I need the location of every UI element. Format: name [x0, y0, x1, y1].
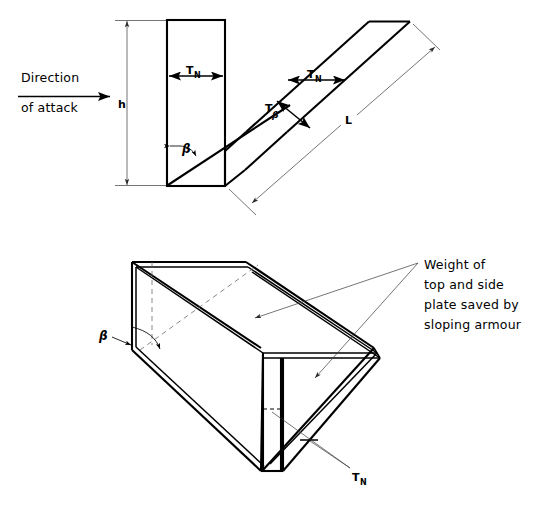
tn-label-main: T [186, 64, 194, 77]
tn-label-subscript: N [194, 71, 201, 80]
skirt-inner-lower-edge [136, 347, 264, 466]
tn-leader-right [310, 441, 350, 468]
tn-label-sloped-plate: T N [307, 68, 322, 84]
vertical-plate-outline [167, 20, 225, 186]
length-dimension-arrow-lower [252, 125, 341, 203]
tn-iso-label-main: T [352, 471, 360, 484]
sloped-plate-base-edge [225, 170, 245, 186]
sloped-plate-left-foot [225, 132, 246, 151]
roof-outer-left-edge [132, 262, 261, 348]
tn-label-iso-view: T N [352, 471, 367, 487]
technical-diagram: Direction of attack h T N β T N T β L [0, 0, 548, 508]
callout-line-1: Weight of [424, 257, 486, 272]
roof-edge-offset-right [252, 272, 380, 358]
callout-line-3: plate saved by [424, 297, 519, 312]
roof-inner-right-edge [248, 267, 377, 353]
callout-line-2: top and side [424, 277, 504, 292]
direction-of-attack-line1: Direction [21, 70, 79, 85]
wedge-outer-sloping-edge [283, 358, 380, 471]
skirt-outer-lower-edge [132, 350, 261, 471]
length-label: L [345, 114, 352, 127]
height-label: h [118, 98, 126, 111]
tn-iso-label-subscript: N [360, 478, 367, 487]
callout-text-block: Weight of top and side plate saved by sl… [424, 257, 522, 332]
wedge-mid-skin-line [270, 353, 377, 464]
iso-beta-leader [112, 337, 131, 345]
diagram-canvas: Direction of attack h T N β T N T β L [0, 0, 548, 508]
sloped-plate-right-foot [245, 132, 287, 170]
length-extension-line-bottom [229, 189, 256, 215]
length-extension-line-top [413, 24, 440, 50]
tn-label-vertical-plate: T N [186, 64, 201, 80]
tn-sloped-label-subscript: N [315, 75, 322, 84]
beta-label-iso-view: β [98, 329, 108, 343]
roof-outer-right-edge [246, 262, 374, 348]
label-layer: Direction of attack h T N β T N T β L [21, 64, 522, 487]
callout-line-4: sloping armour [424, 317, 522, 332]
beta-label-top-view: β [181, 142, 191, 156]
top-view-group [18, 20, 440, 215]
direction-of-attack-line2: of attack [21, 100, 79, 115]
tbeta-label-subscript: β [271, 110, 278, 120]
tn-sloped-label-main: T [307, 68, 315, 81]
bottom-view-group [112, 262, 418, 471]
